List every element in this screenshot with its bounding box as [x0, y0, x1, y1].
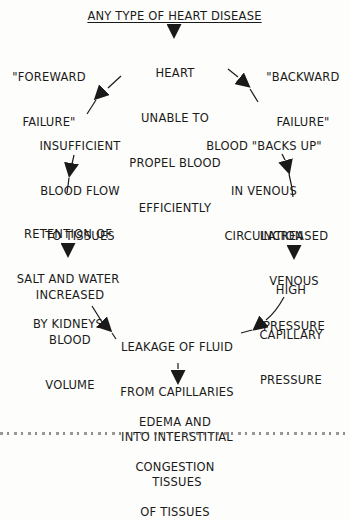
cutoff-caption-line	[0, 432, 349, 435]
arrow-heart-to-backs-up	[228, 69, 238, 77]
node-line: OF TISSUES	[125, 505, 225, 520]
node-line: CONGESTION	[125, 460, 225, 475]
arrow-capillary-to-leakage	[266, 297, 284, 320]
arrow-heart-to-insufficient	[108, 76, 121, 88]
arrow-backs-up-to-venous	[282, 154, 285, 160]
arrow-insufficient-to-retention	[72, 155, 74, 164]
arrow-volume-to-leakage	[92, 306, 102, 322]
